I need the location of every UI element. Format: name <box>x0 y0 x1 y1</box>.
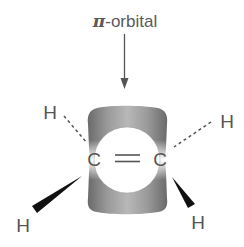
hydrogen-top-left: H <box>43 102 57 123</box>
hydrogen-top-right: H <box>220 111 234 132</box>
wedge-bond-bottom-right <box>172 177 195 208</box>
carbon-atom-right: C <box>153 149 167 170</box>
pi-orbital-label: π-orbital <box>92 11 157 31</box>
dashed-bond-top-right <box>174 122 211 147</box>
hydrogen-bottom-left: H <box>16 215 30 236</box>
wedge-bond-bottom-left <box>32 176 82 213</box>
diagram-svg: π-orbital C C H <box>0 0 244 247</box>
pi-orbital-diagram: π-orbital C C H <box>0 0 244 247</box>
hydrogen-bottom-right: H <box>191 212 205 233</box>
dashed-bond-top-left <box>64 116 87 143</box>
carbon-atom-left: C <box>87 149 101 170</box>
down-arrow-icon <box>121 34 129 89</box>
